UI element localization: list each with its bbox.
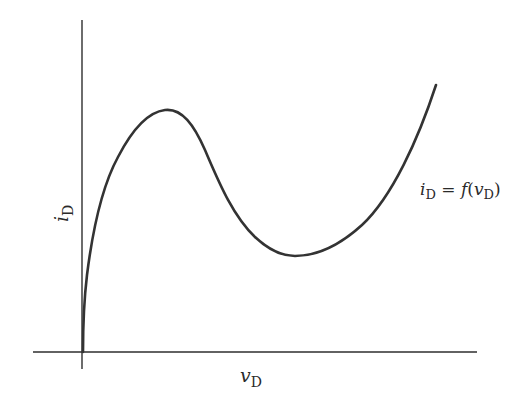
y-axis-label: iD bbox=[50, 205, 76, 222]
characteristic-curve bbox=[83, 85, 436, 352]
annotation-i-sub: D bbox=[425, 187, 435, 202]
annotation-close-paren: ) bbox=[494, 179, 501, 199]
annotation-v: v bbox=[474, 179, 484, 199]
curve-annotation: iD = f(vD) bbox=[420, 179, 501, 202]
x-axis-label-v: v bbox=[240, 364, 251, 386]
annotation-open-paren: ( bbox=[467, 179, 474, 199]
x-axis-label: vD bbox=[240, 364, 262, 390]
y-axis-label-sub: D bbox=[60, 205, 76, 216]
annotation-equals: = bbox=[436, 179, 461, 199]
diagram-canvas: iD vD iD = f(vD) bbox=[0, 0, 519, 415]
x-axis-label-sub: D bbox=[251, 374, 262, 390]
annotation-v-sub: D bbox=[483, 187, 493, 202]
